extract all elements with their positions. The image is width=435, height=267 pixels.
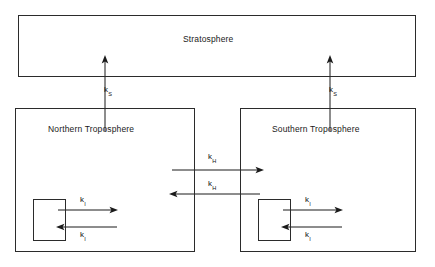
rate-subscript: S [333, 91, 337, 97]
rate-subscript: I [309, 236, 311, 242]
rate-label-ks-south: kS [329, 86, 337, 96]
rate-subscript: H [212, 185, 216, 191]
box-southern-inner-reservoir [258, 199, 291, 241]
box-label-stratosphere: Stratosphere [183, 34, 233, 44]
rate-label-ks-north: kS [104, 86, 112, 96]
rate-subscript: I [84, 236, 86, 242]
rate-label-ki-south-in: kI [305, 231, 311, 241]
rate-label-ki-north-in: kI [80, 231, 86, 241]
rate-label-ki-north-out: kI [80, 196, 86, 206]
rate-label-kh-southbound: kH [208, 180, 216, 190]
diagram-canvas: Stratosphere Northern Troposphere Southe… [0, 0, 435, 267]
box-northern-inner-reservoir [33, 199, 66, 241]
rate-subscript: I [309, 201, 311, 207]
box-stratosphere [18, 15, 416, 77]
box-label-southern-troposphere: Southern Troposphere [272, 124, 360, 134]
rate-label-kh-northbound: kH [208, 153, 216, 163]
box-label-northern-troposphere: Northern Troposphere [48, 124, 134, 134]
rate-subscript: I [84, 201, 86, 207]
rate-subscript: H [212, 158, 216, 164]
rate-subscript: S [108, 91, 112, 97]
rate-label-ki-south-out: kI [305, 196, 311, 206]
